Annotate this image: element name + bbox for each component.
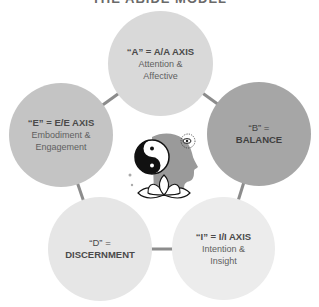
node-d-line1: DISCERNMENT (65, 249, 135, 261)
node-e-embodiment-engagement: “E” = E/E AXIS Embodiment & Engagement (9, 83, 113, 187)
node-i-line1: Intention & (202, 243, 245, 255)
head-yin-yang-lotus-icon (124, 127, 204, 203)
node-d-heading: “D” = (89, 237, 110, 249)
node-a-line1: Attention & (138, 58, 182, 70)
node-d-discernment: “D” = DISCERNMENT (48, 197, 152, 301)
node-b-line1: BALANCE (236, 134, 282, 146)
node-a-heading: “A” = A/A AXIS (127, 46, 194, 58)
node-e-line1: Embodiment & (31, 129, 90, 141)
node-i-line2: Insight (210, 255, 237, 267)
node-e-line2: Engagement (35, 141, 86, 153)
node-i-intention-insight: “I” = I/I AXIS Intention & Insight (172, 197, 275, 300)
node-a-line2: Affective (143, 70, 177, 82)
node-a-attention-affective: “A” = A/A AXIS Attention & Affective (108, 11, 213, 116)
node-b-balance: “B” = BALANCE (207, 82, 311, 186)
node-i-heading: “I” = I/I AXIS (196, 231, 251, 243)
node-e-heading: “E” = E/E AXIS (28, 117, 94, 129)
node-b-heading: “B” = (249, 122, 270, 134)
